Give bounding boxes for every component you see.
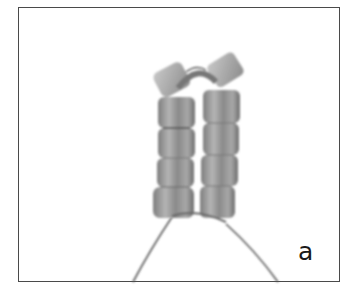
top-right-bead [205,50,245,88]
right-bead-column [200,90,240,218]
left-bead-column [153,97,195,218]
thread-ends [133,217,278,282]
panel-label: a [298,239,313,264]
